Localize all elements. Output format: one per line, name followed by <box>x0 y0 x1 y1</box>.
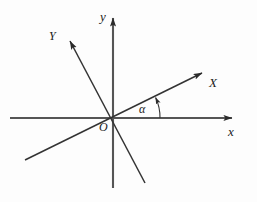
axes-drawing <box>0 0 257 202</box>
y-axis-label: y <box>100 10 106 23</box>
origin-label: O <box>99 121 108 133</box>
Y-axis-line <box>70 41 145 183</box>
Y-axis-label: Y <box>49 30 56 42</box>
angle-alpha-label: α <box>139 103 145 115</box>
coordinate-axes-figure: y Y X x O α <box>0 0 257 202</box>
x-axis-label: x <box>228 125 234 138</box>
angle-arc <box>156 98 160 118</box>
X-axis-label: X <box>209 76 217 89</box>
